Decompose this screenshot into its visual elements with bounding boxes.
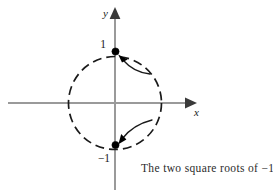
figure-caption: The two square roots of −1 — [141, 162, 273, 174]
root-point-upper — [112, 48, 119, 55]
y-axis-label: y — [102, 7, 108, 19]
upper-pointer-arrow — [118, 54, 150, 74]
tick-label-positive-one: 1 — [100, 38, 106, 50]
root-point-lower — [112, 141, 119, 148]
tick-label-negative-one: −1 — [98, 152, 110, 164]
x-axis-group: x — [8, 98, 199, 119]
square-roots-figure: x y 1 −1 The two square roots of −1 — [0, 0, 273, 196]
lower-pointer-arrow — [118, 120, 152, 144]
x-axis-label: x — [193, 106, 199, 118]
arrow-up-icon — [110, 7, 121, 19]
